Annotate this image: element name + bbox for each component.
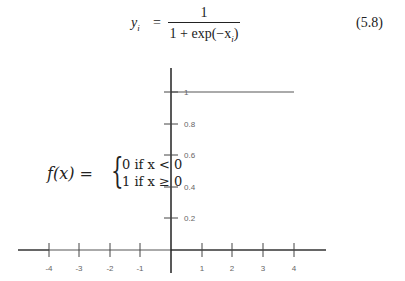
- svg-text:1: 1: [200, 264, 205, 273]
- svg-text:-1: -1: [136, 264, 144, 273]
- svg-text:4: 4: [292, 264, 297, 273]
- svg-text:3: 3: [261, 264, 266, 273]
- svg-text:2: 2: [230, 264, 235, 273]
- svg-text:-4: -4: [45, 264, 53, 273]
- svg-text:1: 1: [184, 88, 189, 97]
- svg-text:0.6: 0.6: [184, 151, 196, 160]
- step-function-chart: -4 -3 -2 -1 1 2 3 4 1 0.8 0.6 0.4 0.2: [0, 0, 405, 281]
- svg-text:-3: -3: [75, 264, 83, 273]
- svg-text:0.4: 0.4: [184, 183, 196, 192]
- case-one: 0 if x < 0: [122, 156, 182, 173]
- svg-text:0.2: 0.2: [184, 214, 196, 223]
- case-two: 1 if x ≥ 0: [122, 173, 182, 190]
- y-tick-labels: 1 0.8 0.6 0.4 0.2: [184, 88, 196, 223]
- svg-text:-2: -2: [106, 264, 114, 273]
- piecewise-lhs: f(x) =: [47, 164, 93, 183]
- svg-text:0.8: 0.8: [184, 120, 196, 129]
- piecewise-cases: 0 if x < 0 1 if x ≥ 0: [122, 156, 182, 190]
